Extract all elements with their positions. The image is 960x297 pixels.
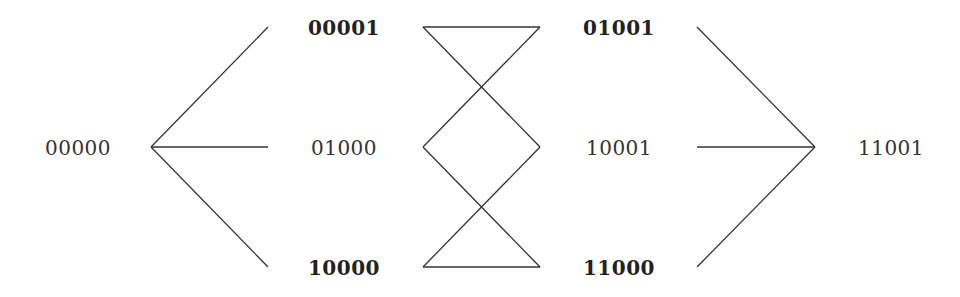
edge-00000-00001: [151, 27, 268, 147]
node-00001: 00001: [308, 16, 380, 40]
lattice-edges: [0, 0, 960, 297]
edge-00000-10000: [151, 147, 268, 267]
node-10001: 10001: [586, 136, 652, 160]
node-11000: 11000: [583, 256, 655, 280]
node-11001: 11001: [858, 136, 924, 160]
edge-11000-11001: [697, 147, 815, 267]
node-01001: 01001: [583, 16, 655, 40]
node-00000: 00000: [45, 136, 111, 160]
node-01000: 01000: [311, 136, 377, 160]
edge-01001-11001: [697, 27, 815, 147]
node-10000: 10000: [308, 256, 380, 280]
